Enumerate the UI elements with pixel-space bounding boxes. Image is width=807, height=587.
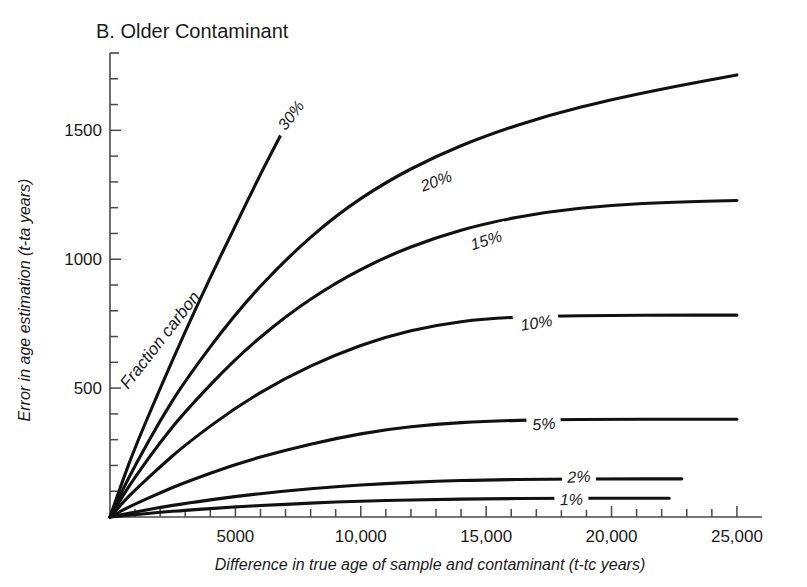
- x-axis-tick-label: 25,000: [711, 527, 763, 546]
- curve-label-2pct: 2%: [566, 468, 591, 486]
- x-axis-tick-label: 15,000: [460, 527, 512, 546]
- fraction-carbon-annotation: Fraction carbon: [116, 288, 204, 393]
- chart-axes: 50010001500500010,00015,00020,00025,000: [64, 53, 763, 546]
- chart-figure: B. Older Contaminant 50010001500500010,0…: [0, 0, 807, 587]
- x-axis-tick-label: 5000: [216, 527, 254, 546]
- y-axis-tick-label: 500: [74, 379, 102, 398]
- y-axis-tick-label: 1500: [64, 121, 102, 140]
- x-axis-title: Difference in true age of sample and con…: [215, 556, 645, 573]
- curve-label-1pct: 1%: [560, 491, 583, 508]
- x-axis-tick-label: 20,000: [586, 527, 638, 546]
- curve-5pct: [110, 419, 737, 517]
- page-title: B. Older Contaminant: [96, 20, 289, 42]
- y-axis-title: Error in age estimation (t-ta years): [16, 179, 33, 422]
- chart-curves: [110, 75, 737, 517]
- curve-10pct: [110, 315, 737, 517]
- curve-label-5pct: 5%: [532, 414, 557, 433]
- y-axis-tick-label: 1000: [64, 250, 102, 269]
- curve-20pct: [110, 75, 737, 517]
- curve-15pct: [110, 200, 737, 517]
- x-axis-tick-label: 10,000: [335, 527, 387, 546]
- chart-svg: B. Older Contaminant 50010001500500010,0…: [0, 0, 807, 587]
